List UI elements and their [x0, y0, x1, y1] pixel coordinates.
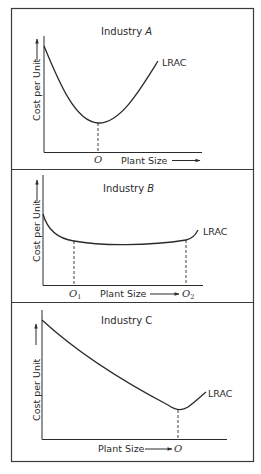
lrac-curve	[44, 46, 158, 123]
x-axis-label: Plant Size	[98, 443, 145, 454]
y-axis-label: Cost per Unit	[31, 58, 42, 121]
optimum-tick-label: O	[94, 154, 102, 165]
o2-tick-label: O2	[182, 288, 194, 301]
x-axis-label: Plant Size	[121, 155, 168, 166]
panel-industry-a: Industry A LRAC O Plant Size Cost per Un…	[31, 26, 202, 166]
o1-tick-label: O1	[69, 288, 81, 301]
figure: Industry A LRAC O Plant Size Cost per Un…	[0, 0, 261, 474]
panel-title: Industry B	[103, 183, 154, 194]
y-axis-label: Cost per Unit	[31, 358, 42, 421]
lrac-curve	[42, 320, 206, 409]
curve-label: LRAC	[162, 57, 187, 68]
y-axis-label: Cost per Unit	[31, 199, 42, 262]
panel-title: Industry A	[101, 26, 152, 37]
panel-title: Industry C	[101, 315, 152, 326]
optimum-tick-label: O	[174, 443, 182, 454]
lrac-curve	[43, 214, 198, 245]
curve-label: LRAC	[203, 226, 228, 237]
panel-industry-b: Industry B LRAC O1 Plant Size O2 Cost pe…	[31, 175, 228, 301]
x-axis-label: Plant Size	[100, 288, 147, 299]
panel-industry-c: Industry C LRAC Plant Size O Cost per Un…	[31, 310, 233, 454]
curve-label: LRAC	[208, 388, 233, 399]
